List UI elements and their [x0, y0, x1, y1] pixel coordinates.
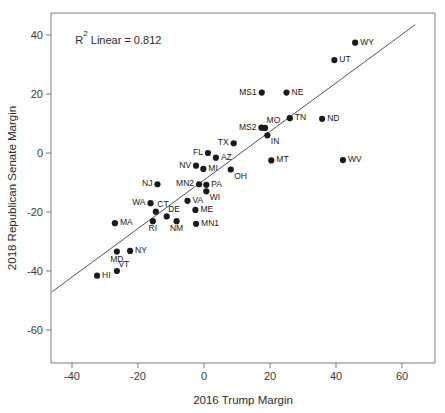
y-axis-ticks: 40200-20-40-60 — [27, 29, 51, 336]
point-marker — [164, 213, 170, 219]
data-point: MA — [112, 217, 133, 227]
plot-border — [51, 13, 435, 363]
data-point: MO — [262, 115, 281, 131]
y-axis-title: 2018 Republican Senate Margin — [6, 106, 18, 270]
y-tick-label: -60 — [27, 324, 43, 336]
point-marker — [213, 155, 219, 161]
data-point: TX — [218, 137, 237, 147]
point-label: MA — [120, 217, 133, 227]
point-marker — [153, 209, 159, 215]
data-point: NV — [179, 160, 199, 170]
point-label: NJ — [142, 178, 152, 188]
x-tick-label: 60 — [396, 370, 408, 382]
point-label: AZ — [221, 152, 232, 162]
point-marker — [283, 89, 289, 95]
point-marker — [193, 163, 199, 169]
point-label: WY — [360, 37, 374, 47]
point-marker — [268, 157, 274, 163]
plot-frame — [51, 13, 435, 363]
point-marker — [200, 166, 206, 172]
point-label: ND — [327, 113, 339, 123]
y-tick-label: 40 — [31, 29, 43, 41]
point-marker — [193, 221, 199, 227]
point-label: MS1 — [239, 87, 257, 97]
point-label: OH — [234, 171, 247, 181]
y-tick-label: 0 — [37, 147, 43, 159]
point-label: ME — [200, 204, 213, 214]
data-point: WI — [203, 188, 220, 202]
point-marker — [319, 116, 325, 122]
point-label: WA — [132, 197, 146, 207]
data-point: NY — [127, 245, 147, 255]
point-label: MN1 — [201, 218, 219, 228]
point-marker — [352, 40, 358, 46]
point-label: NE — [292, 87, 304, 97]
data-point: UT — [331, 54, 350, 64]
point-label: NY — [135, 245, 147, 255]
point-marker — [287, 115, 293, 121]
x-axis-title: 2016 Trump Margin — [193, 394, 293, 406]
data-point: RI — [149, 218, 158, 233]
data-point: MN2 — [176, 178, 202, 188]
point-label: MI — [208, 163, 217, 173]
data-point: WV — [340, 154, 362, 164]
data-point: PA — [203, 179, 222, 189]
y-tick-label: -20 — [27, 206, 43, 218]
data-point: OH — [228, 166, 247, 180]
point-label: MO — [267, 115, 281, 125]
data-point: MS1 — [239, 87, 265, 97]
point-marker — [231, 140, 237, 146]
data-point: ME — [192, 204, 213, 214]
r-squared-annotation: R2 Linear = 0.812 — [75, 29, 161, 46]
point-marker — [203, 182, 209, 188]
point-label: CT — [157, 199, 168, 209]
point-marker — [340, 157, 346, 163]
point-marker — [154, 181, 160, 187]
point-label: VT — [118, 259, 129, 269]
point-label: MN2 — [176, 178, 194, 188]
data-point: TN — [287, 112, 306, 122]
point-marker — [228, 166, 234, 172]
point-label: IN — [271, 136, 280, 146]
x-tick-label: 20 — [264, 370, 276, 382]
data-point: NM — [170, 218, 183, 233]
point-label: WI — [210, 192, 220, 202]
x-tick-label: 0 — [201, 370, 207, 382]
point-label: NV — [179, 160, 191, 170]
point-marker — [196, 181, 202, 187]
point-label: DE — [168, 204, 180, 214]
x-tick-label: 40 — [330, 370, 342, 382]
data-point: MN1 — [193, 218, 219, 228]
data-point: MI — [200, 163, 218, 173]
point-label: RI — [149, 223, 158, 233]
point-marker — [331, 57, 337, 63]
data-point: MT — [268, 154, 288, 164]
point-label: HI — [102, 270, 111, 280]
point-marker — [264, 132, 270, 138]
x-tick-label: -20 — [130, 370, 146, 382]
point-label: FL — [193, 147, 203, 157]
point-marker — [258, 125, 264, 131]
plot-svg: -40-200204060 40200-20-40-60 WYUTMS1NEMO… — [0, 0, 445, 413]
x-axis-ticks: -40-200204060 — [64, 363, 408, 382]
point-marker — [114, 268, 120, 274]
point-label: TN — [295, 112, 306, 122]
point-marker — [147, 200, 153, 206]
y-tick-label: 20 — [31, 88, 43, 100]
data-point: WY — [352, 37, 374, 47]
point-label: NM — [170, 223, 183, 233]
point-marker — [112, 220, 118, 226]
data-point: HI — [94, 270, 111, 280]
data-point: AZ — [213, 152, 232, 162]
point-marker — [192, 207, 198, 213]
point-label: MS2 — [239, 122, 257, 132]
data-point: MS2 — [239, 122, 265, 132]
point-label: WV — [348, 154, 362, 164]
point-marker — [205, 150, 211, 156]
r-squared-value-text: Linear = 0.812 — [88, 34, 162, 46]
scatter-plot-figure: -40-200204060 40200-20-40-60 WYUTMS1NEMO… — [0, 0, 445, 413]
point-marker — [184, 198, 190, 204]
point-label: UT — [339, 54, 350, 64]
point-label: TX — [218, 137, 229, 147]
point-marker — [127, 248, 133, 254]
